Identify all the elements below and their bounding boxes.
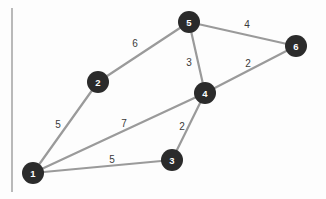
graph-node-4[interactable]: 4 <box>194 82 216 104</box>
graph-svg: 123456 57562324 <box>0 0 326 199</box>
graph-edge-4-6 <box>205 46 296 93</box>
graph-node-3[interactable]: 3 <box>161 149 183 171</box>
graph-node-2[interactable]: 2 <box>87 71 109 93</box>
node-label-2: 2 <box>95 77 100 88</box>
edge-weight-1-3: 5 <box>109 154 115 165</box>
graph-edge-1-3 <box>33 160 172 173</box>
edges-group <box>33 22 296 173</box>
node-label-6: 6 <box>293 41 298 52</box>
node-label-5: 5 <box>186 17 192 28</box>
graph-edge-1-2 <box>33 82 98 173</box>
edge-weight-3-4: 2 <box>179 121 185 132</box>
edge-weights-group: 57562324 <box>55 19 251 165</box>
graph-node-5[interactable]: 5 <box>178 11 200 33</box>
edge-weight-5-6: 4 <box>244 19 250 30</box>
edge-weight-2-5: 6 <box>132 38 138 49</box>
graph-diagram: 123456 57562324 <box>0 0 326 199</box>
node-label-3: 3 <box>169 155 174 166</box>
edge-weight-1-2: 5 <box>55 119 61 130</box>
graph-node-1[interactable]: 1 <box>22 162 44 184</box>
node-label-1: 1 <box>30 168 36 179</box>
graph-edge-2-5 <box>98 22 189 82</box>
graph-edge-5-6 <box>189 22 296 46</box>
edge-weight-1-4: 7 <box>121 118 127 129</box>
edge-weight-4-6: 2 <box>245 58 251 69</box>
graph-edge-3-4 <box>172 93 205 160</box>
node-label-4: 4 <box>202 88 208 99</box>
graph-node-6[interactable]: 6 <box>285 35 307 57</box>
edge-weight-4-5: 3 <box>186 57 192 68</box>
